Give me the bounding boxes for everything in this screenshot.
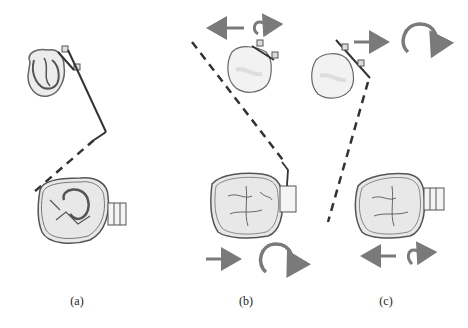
panel-a-solid-path [68,50,106,132]
panel-c-label: (c) [366,294,406,309]
panel-a-small-object [28,46,80,96]
panel-a-label: (a) [57,294,97,309]
panel-b-rotate-small-icon [254,22,266,34]
panel-b-small-object [228,40,278,92]
panel-c-large-object [355,174,444,239]
panel-c [312,24,444,264]
panel-c-small-object [312,40,370,98]
panel-c-rotate-small-icon [408,250,420,264]
panel-b [192,22,296,272]
panel-b-label: (b) [226,294,266,309]
panel-a [28,46,126,243]
panel-b-rotate-large-icon [261,244,293,272]
panel-b-large-object [211,173,296,238]
panel-c-rotate-large-icon [403,24,437,52]
panel-a-large-object [38,178,126,244]
diagram-canvas [0,0,468,328]
